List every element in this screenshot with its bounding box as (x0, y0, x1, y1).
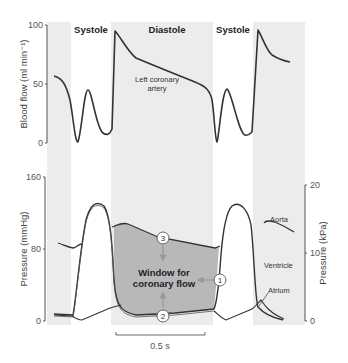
coronary-label-line1: Left coronary (135, 75, 179, 84)
phase-label-systole-2: Systole (216, 24, 250, 35)
flow-y-label: Blood flow (ml min⁻¹) (18, 40, 29, 129)
mmhg-y-label: Pressure (mmHg) (18, 212, 29, 287)
kpa-y-label: Pressure (kPa) (317, 221, 328, 284)
marker-1: 1 (214, 274, 226, 286)
atrium-label: Atrium (268, 286, 290, 295)
time-scale-bar (116, 332, 205, 335)
phase-label-diastole: Diastole (149, 24, 186, 35)
kpa-tick-20: 20 (310, 180, 320, 190)
coronary-flow-diagram: 100 50 0 Blood flow (ml min⁻¹) Systole D… (0, 0, 348, 363)
flow-tick-0: 0 (38, 138, 43, 148)
window-label-line2: coronary flow (133, 278, 196, 289)
mmhg-tick-160: 160 (26, 172, 41, 182)
coronary-label-line2: artery (147, 84, 166, 93)
marker-2: 2 (157, 310, 169, 322)
band-diastole-1 (47, 22, 71, 325)
time-scale-label: 0.5 s (150, 341, 170, 351)
band-diastole-3 (253, 22, 305, 325)
flow-tick-50: 50 (33, 79, 43, 89)
svg-text:2: 2 (161, 312, 166, 321)
svg-text:3: 3 (161, 234, 166, 243)
window-label-line1: Window for (138, 267, 190, 278)
marker-3: 3 (157, 232, 169, 244)
mmhg-tick-0: 0 (36, 316, 41, 326)
kpa-tick-0: 0 (310, 316, 315, 326)
aorta-label: Aorta (270, 215, 289, 224)
svg-text:1: 1 (218, 276, 223, 285)
flow-tick-100: 100 (28, 20, 43, 30)
phase-label-systole-1: Systole (74, 24, 108, 35)
mmhg-tick-80: 80 (31, 244, 41, 254)
ventricle-label: Ventricle (264, 261, 293, 270)
